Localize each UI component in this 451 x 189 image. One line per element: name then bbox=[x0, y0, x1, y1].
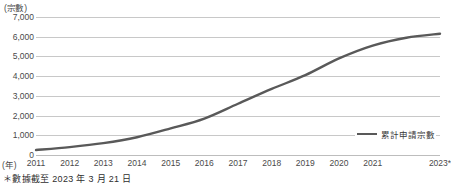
x-axis-tick-label: 2018 bbox=[262, 158, 281, 168]
legend-line-swatch bbox=[357, 133, 377, 135]
y-axis-tick-label: 6,000 bbox=[0, 32, 34, 42]
x-axis-tick-labels: 2011201220132014201520162017201820192020… bbox=[36, 158, 440, 170]
x-axis-tick-label: 2021 bbox=[363, 158, 382, 168]
y-axis-tick-label: 2,000 bbox=[0, 111, 34, 121]
chart-footnote: ＊數據截至 2023 年 3 月 21 日 bbox=[3, 172, 131, 185]
legend-item-label: 累計申請宗數 bbox=[381, 128, 434, 140]
gridline bbox=[36, 155, 440, 156]
y-axis-tick-labels: 7,0006,0005,0004,0003,0002,0001,0000 bbox=[0, 17, 34, 155]
x-axis-tick-label: 2013 bbox=[94, 158, 113, 168]
x-axis-tick-label: 2019 bbox=[296, 158, 315, 168]
x-axis-tick-label: 2011 bbox=[27, 158, 45, 168]
x-axis-tick-label: 2015 bbox=[161, 158, 180, 168]
y-axis-tick-label: 3,000 bbox=[0, 91, 34, 101]
chart-legend: 累計申請宗數 bbox=[355, 127, 436, 141]
x-axis-tick-label: 2014 bbox=[128, 158, 147, 168]
y-axis-tick-label: 4,000 bbox=[0, 71, 34, 81]
x-axis-tick-label: 2012 bbox=[60, 158, 79, 168]
x-axis-unit-label: (年) bbox=[2, 158, 17, 170]
y-axis-tick-label: 7,000 bbox=[0, 12, 34, 22]
x-axis-tick-label: 2023* bbox=[429, 158, 451, 168]
y-axis-tick-label: 1,000 bbox=[0, 130, 34, 140]
x-axis-tick-label: 2017 bbox=[229, 158, 248, 168]
x-axis-tick-label: 2020 bbox=[330, 158, 349, 168]
x-axis-tick-label: 2016 bbox=[195, 158, 214, 168]
y-axis-tick-label: 5,000 bbox=[0, 51, 34, 61]
